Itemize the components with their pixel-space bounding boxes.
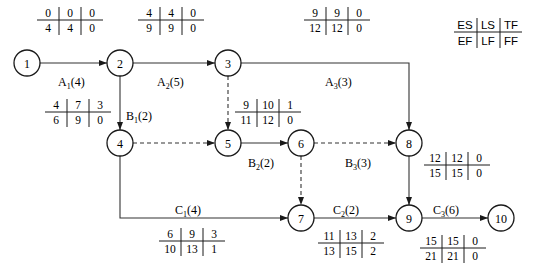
svg-text:6: 6	[298, 137, 304, 151]
svg-text:1: 1	[287, 99, 293, 111]
svg-text:7: 7	[75, 99, 81, 111]
svg-text:3: 3	[211, 228, 217, 240]
svg-text:13: 13	[323, 245, 335, 257]
svg-text:4: 4	[117, 137, 123, 151]
network-diagram: A1(4) A2(5) A3(3) B1(2) B2(2) B3(3) C1(4…	[0, 0, 533, 277]
svg-text:11: 11	[240, 114, 251, 126]
svg-text:7: 7	[298, 212, 304, 226]
node-6: 6	[288, 130, 314, 156]
node-10: 10	[488, 205, 514, 231]
svg-text:0: 0	[356, 7, 362, 19]
svg-text:LS: LS	[481, 19, 495, 31]
svg-text:12: 12	[309, 22, 321, 34]
svg-text:15: 15	[429, 167, 441, 179]
table-A3: 990 12120	[304, 7, 370, 35]
svg-text:9: 9	[243, 99, 249, 111]
node-1: 1	[14, 50, 40, 76]
node-8: 8	[396, 130, 422, 156]
svg-text:9: 9	[334, 7, 340, 19]
svg-text:10: 10	[495, 212, 507, 226]
legend-table: ESLSTF EFLFFF	[454, 18, 522, 48]
svg-text:9: 9	[312, 7, 318, 19]
svg-text:9: 9	[146, 22, 152, 34]
svg-text:15: 15	[447, 235, 459, 247]
svg-text:FF: FF	[504, 35, 518, 47]
svg-text:0: 0	[476, 167, 482, 179]
svg-text:TF: TF	[504, 19, 518, 31]
label-C1: C1(4)	[175, 203, 201, 219]
svg-text:9: 9	[406, 212, 412, 226]
svg-text:0: 0	[89, 7, 95, 19]
svg-text:10: 10	[164, 243, 176, 255]
label-C2: C2(2)	[333, 203, 359, 219]
svg-text:EF: EF	[458, 35, 473, 47]
svg-text:4: 4	[67, 22, 73, 34]
svg-text:0: 0	[476, 152, 482, 164]
label-B3: B3(3)	[345, 156, 371, 172]
svg-text:2: 2	[117, 57, 123, 71]
svg-text:ES: ES	[457, 19, 473, 31]
svg-text:15: 15	[345, 245, 357, 257]
node-4: 4	[107, 130, 133, 156]
table-A1: 000 440	[37, 7, 103, 35]
svg-text:3: 3	[225, 57, 231, 71]
svg-text:1: 1	[211, 243, 217, 255]
svg-text:12: 12	[262, 114, 274, 126]
svg-text:12: 12	[451, 152, 463, 164]
table-A2: 440 990	[138, 7, 204, 35]
svg-text:0: 0	[89, 22, 95, 34]
label-A3: A3(3)	[325, 75, 352, 91]
svg-text:6: 6	[53, 114, 59, 126]
svg-text:13: 13	[345, 230, 357, 242]
svg-text:21: 21	[447, 250, 459, 262]
node-9: 9	[396, 205, 422, 231]
svg-text:LF: LF	[481, 35, 494, 47]
table-C1: 693 10131	[159, 228, 225, 256]
svg-text:8: 8	[406, 137, 412, 151]
svg-text:3: 3	[97, 99, 103, 111]
label-A2: A2(5)	[157, 75, 184, 91]
svg-text:2: 2	[370, 245, 376, 257]
node-3: 3	[215, 50, 241, 76]
label-A1: A1(4)	[58, 75, 85, 91]
svg-text:10: 10	[262, 99, 274, 111]
label-C3: C3(6)	[433, 203, 459, 219]
svg-text:0: 0	[356, 22, 362, 34]
table-B2: 9101 11120	[235, 99, 301, 127]
table-C3: 15150 21210	[420, 235, 486, 263]
svg-text:4: 4	[45, 22, 51, 34]
svg-text:4: 4	[53, 99, 59, 111]
svg-text:6: 6	[167, 228, 173, 240]
svg-text:0: 0	[190, 22, 196, 34]
svg-text:0: 0	[190, 7, 196, 19]
svg-text:15: 15	[425, 235, 437, 247]
svg-text:21: 21	[425, 250, 437, 262]
node-7: 7	[288, 205, 314, 231]
svg-text:12: 12	[331, 22, 343, 34]
svg-text:0: 0	[472, 235, 478, 247]
svg-text:15: 15	[451, 167, 463, 179]
svg-text:0: 0	[97, 114, 103, 126]
table-C2: 11132 13152	[318, 230, 384, 258]
label-B2: B2(2)	[248, 156, 274, 172]
svg-text:4: 4	[146, 7, 152, 19]
table-B3: 12120 15150	[424, 152, 490, 180]
svg-text:5: 5	[225, 137, 231, 151]
label-B1: B1(2)	[126, 109, 152, 125]
svg-text:0: 0	[45, 7, 51, 19]
node-2: 2	[107, 50, 133, 76]
svg-text:11: 11	[323, 230, 334, 242]
node-5: 5	[215, 130, 241, 156]
svg-text:12: 12	[429, 152, 441, 164]
svg-text:9: 9	[168, 22, 174, 34]
svg-text:1: 1	[24, 57, 30, 71]
svg-text:9: 9	[189, 228, 195, 240]
svg-text:0: 0	[287, 114, 293, 126]
svg-text:0: 0	[472, 250, 478, 262]
svg-text:0: 0	[67, 7, 73, 19]
svg-text:2: 2	[370, 230, 376, 242]
svg-text:9: 9	[75, 114, 81, 126]
table-B1: 473 690	[45, 99, 111, 127]
svg-text:4: 4	[168, 7, 174, 19]
svg-text:13: 13	[186, 243, 198, 255]
